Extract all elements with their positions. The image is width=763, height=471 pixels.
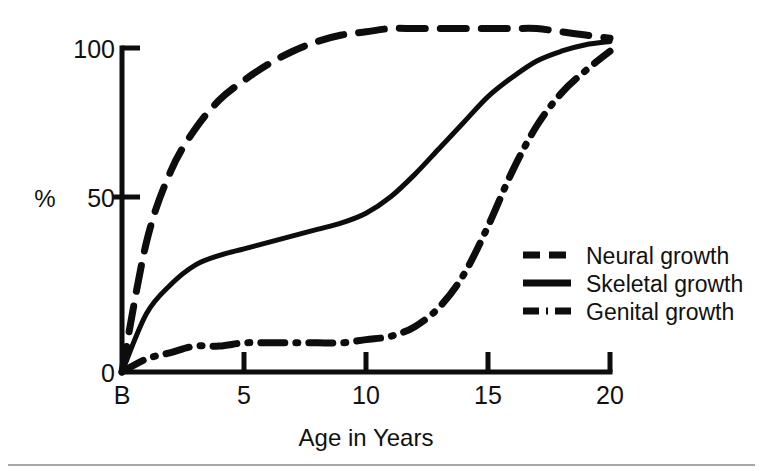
x-tick-label-20: 20 <box>596 381 624 409</box>
legend-label-skeletal: Skeletal growth <box>586 271 743 297</box>
legend-label-neural: Neural growth <box>586 243 729 269</box>
legend: Neural growth Skeletal growth Genital gr… <box>523 243 743 325</box>
curve-skeletal-growth <box>122 42 610 372</box>
x-axis-title: Age in Years <box>299 424 434 451</box>
axis-lines <box>122 48 610 372</box>
chart-canvas: 100 50 0 % B 5 10 15 20 Age in Years Neu… <box>0 0 763 471</box>
y-tick-label-100: 100 <box>73 35 115 63</box>
legend-label-genital: Genital growth <box>586 299 734 325</box>
curve-neural-growth <box>122 28 610 372</box>
x-tick-label-5: 5 <box>237 381 251 409</box>
x-tick-label-birth: B <box>114 381 131 409</box>
x-tick-label-15: 15 <box>474 381 502 409</box>
x-tick-label-10: 10 <box>352 381 380 409</box>
data-curves <box>122 28 610 372</box>
growth-curves-figure: 100 50 0 % B 5 10 15 20 Age in Years Neu… <box>0 0 763 471</box>
y-tick-label-50: 50 <box>87 184 115 212</box>
y-axis-unit-label: % <box>34 185 55 212</box>
axis-frame <box>113 48 610 372</box>
